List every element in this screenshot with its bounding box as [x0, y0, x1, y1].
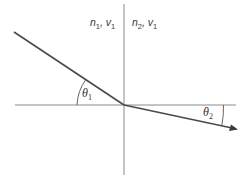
- medium2-label: n2, v1: [132, 16, 157, 31]
- incident-ray: [14, 32, 124, 105]
- angle2-arc: [222, 105, 224, 126]
- medium1-label: n1, v1: [90, 16, 115, 31]
- angle2-label: θ2: [203, 105, 213, 121]
- angle1-label: θ1: [82, 86, 92, 102]
- refracted-ray: [124, 105, 232, 128]
- arrowhead-icon: [229, 125, 238, 132]
- refraction-diagram: [0, 0, 239, 177]
